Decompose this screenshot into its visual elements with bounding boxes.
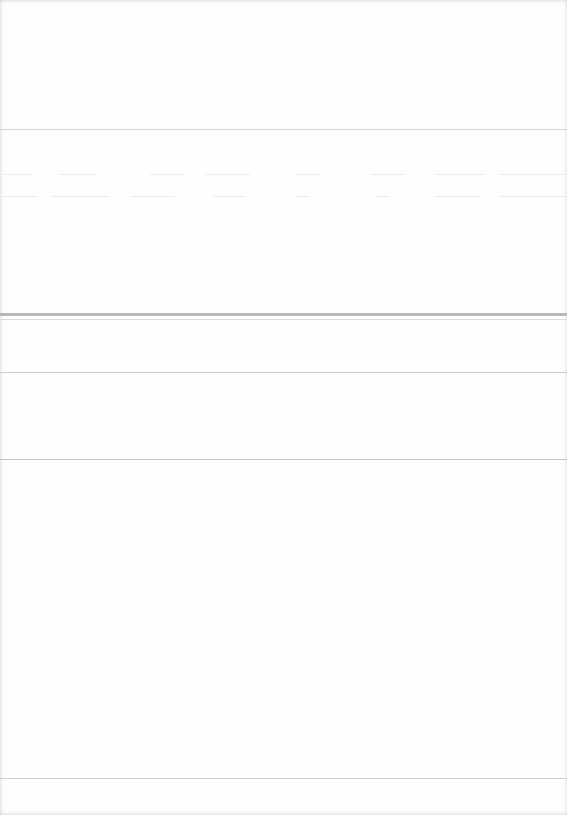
bleed-through-mark <box>0 174 32 175</box>
bleed-through-mark <box>435 174 485 175</box>
bleed-through-mark <box>130 196 175 197</box>
horizontal-rule <box>0 372 567 373</box>
blank-document-page <box>0 0 567 815</box>
bleed-through-mark <box>150 174 185 175</box>
bleed-through-mark <box>435 196 480 197</box>
bleed-through-mark <box>375 196 390 197</box>
horizontal-rule <box>0 129 567 130</box>
bleed-through-mark <box>295 174 320 175</box>
horizontal-rule <box>0 778 567 779</box>
bleed-through-mark <box>500 174 567 175</box>
bleed-through-mark <box>60 174 95 175</box>
bleed-through-mark <box>295 196 310 197</box>
bleed-through-mark <box>52 196 110 197</box>
horizontal-rule <box>0 459 567 460</box>
horizontal-rule <box>0 313 567 316</box>
bleed-through-mark <box>205 174 250 175</box>
bleed-through-mark <box>213 196 245 197</box>
horizontal-rule <box>0 319 567 320</box>
bleed-through-mark <box>0 196 38 197</box>
bleed-through-mark <box>500 196 567 197</box>
bleed-through-row <box>0 196 567 198</box>
bleed-through-row <box>0 174 567 176</box>
bleed-through-mark <box>370 174 405 175</box>
